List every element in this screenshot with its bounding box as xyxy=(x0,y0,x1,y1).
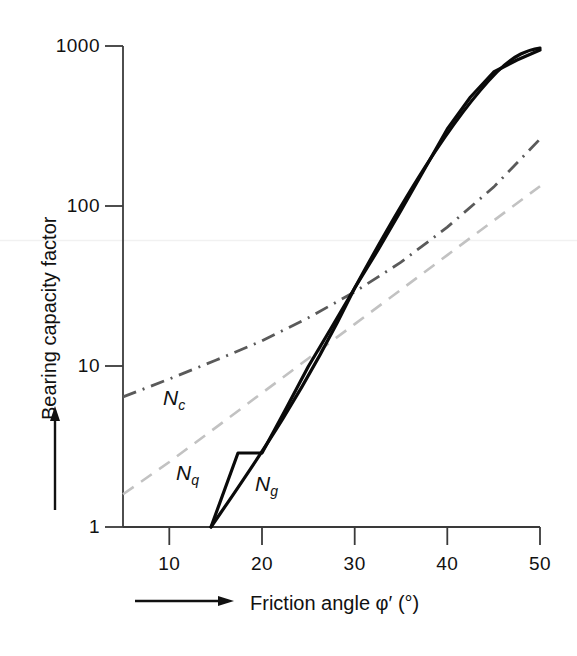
y-axis-title-wrap: Bearing capacity factor xyxy=(14,120,42,420)
y-axis-title: Bearing capacity factor xyxy=(38,217,61,420)
curve-label-nq: Nq xyxy=(176,461,199,488)
curve-label-nc-sub: c xyxy=(178,397,185,413)
plot-area xyxy=(0,0,577,656)
x-tick-label-30: 30 xyxy=(344,553,366,575)
x-tick-label-50: 50 xyxy=(529,553,551,575)
curve-label-nc: Nc xyxy=(163,386,185,413)
y-tick-label-1000: 1000 xyxy=(40,35,100,57)
x-axis-direction-arrow xyxy=(135,596,234,606)
y-axis-direction-arrow xyxy=(50,406,60,510)
curve-nc xyxy=(123,139,540,397)
y-tick-label-100: 100 xyxy=(40,195,100,217)
curve-label-nc-base: N xyxy=(163,386,178,409)
curve-label-ng: Ng xyxy=(255,472,278,499)
x-tick-label-20: 20 xyxy=(251,553,273,575)
figure-bearing-capacity-factors: 1000 100 10 1 10 20 30 40 50 Bearing cap… xyxy=(0,0,577,656)
x-axis-title: Friction angle φ′ (°) xyxy=(250,592,419,615)
x-tick-label-40: 40 xyxy=(436,553,458,575)
curve-label-nq-sub: q xyxy=(191,472,199,488)
curve-label-nq-base: N xyxy=(176,461,191,484)
x-tick-label-10: 10 xyxy=(158,553,180,575)
y-tick-label-1: 1 xyxy=(40,516,100,538)
curve-label-ng-sub: g xyxy=(270,483,278,499)
curve-ng-smooth xyxy=(211,48,540,527)
curve-nq xyxy=(123,186,540,494)
curve-label-ng-base: N xyxy=(255,472,270,495)
